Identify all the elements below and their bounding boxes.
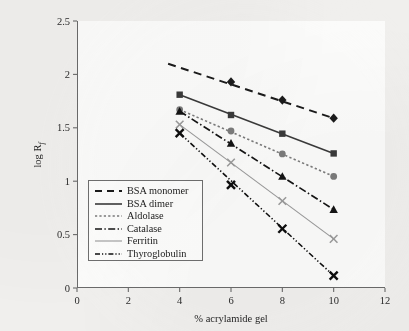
- legend-swatch-dashdot-icon: [94, 224, 123, 234]
- chart-canvas: 00.511.522.5 024681012 log Rf % acrylami…: [0, 0, 409, 331]
- data-point-marker: [176, 121, 184, 129]
- y-tick-label: 2.5: [57, 16, 70, 27]
- legend-label-catalase: Catalase: [123, 224, 162, 234]
- data-point-marker: [279, 130, 285, 136]
- legend-label-bsa-monomer: BSA monomer: [123, 186, 189, 196]
- y-tick-label: 0.5: [57, 229, 70, 240]
- legend-swatch-dotted-icon: [94, 211, 123, 221]
- legend-swatch-thin-solid-icon: [94, 236, 123, 246]
- x-axis-ticks: 024681012: [74, 288, 390, 306]
- y-axis-title-sub: f: [37, 142, 46, 145]
- data-point-marker: [330, 235, 338, 243]
- data-point-marker: [278, 225, 286, 233]
- chart-legend: BSA monomer BSA dimer Aldolase Catalase …: [88, 180, 203, 261]
- legend-label-bsa-dimer: BSA dimer: [123, 199, 173, 209]
- data-point-marker: [279, 197, 287, 205]
- data-point-marker: [228, 112, 234, 118]
- series-line: [180, 95, 334, 154]
- data-point-marker: [228, 128, 235, 135]
- data-point-marker: [330, 150, 336, 156]
- data-point-marker: [329, 114, 337, 123]
- y-tick-label: 1: [65, 176, 70, 187]
- y-tick-label: 1.5: [57, 122, 70, 133]
- data-point-marker: [227, 159, 235, 167]
- legend-item-ferritin[interactable]: Ferritin: [89, 235, 202, 248]
- legend-item-catalase[interactable]: Catalase: [89, 223, 202, 236]
- legend-item-bsa-monomer[interactable]: BSA monomer: [89, 185, 202, 198]
- legend-label-aldolase: Aldolase: [123, 211, 164, 221]
- data-point-marker: [176, 91, 182, 97]
- x-tick-label: 0: [74, 295, 79, 306]
- series-bsa-monomer: [168, 64, 338, 123]
- x-tick-label: 4: [177, 295, 183, 306]
- y-axis-title: log Rf: [32, 142, 46, 168]
- legend-item-aldolase[interactable]: Aldolase: [89, 210, 202, 223]
- x-tick-label: 6: [228, 295, 233, 306]
- y-tick-label: 2: [65, 69, 70, 80]
- series-line: [168, 64, 334, 118]
- legend-label-ferritin: Ferritin: [123, 236, 158, 246]
- legend-swatch-dashdotdot-icon: [94, 249, 123, 259]
- x-axis-title: % acrylamide gel: [194, 313, 268, 324]
- data-point-marker: [176, 129, 184, 137]
- x-tick-label: 2: [126, 295, 131, 306]
- data-point-marker: [330, 272, 338, 280]
- legend-item-bsa-dimer[interactable]: BSA dimer: [89, 198, 202, 211]
- y-axis-ticks: 00.511.522.5: [57, 16, 77, 294]
- data-point-marker: [329, 205, 337, 213]
- series-line: [180, 110, 334, 177]
- x-tick-label: 10: [328, 295, 339, 306]
- legend-swatch-dashed-icon: [94, 186, 123, 196]
- series-aldolase: [176, 106, 337, 180]
- chart-figure: 00.511.522.5 024681012 log Rf % acrylami…: [0, 0, 409, 331]
- svg-text:log Rf: log Rf: [32, 142, 46, 168]
- y-axis-title-main: log R: [32, 145, 43, 168]
- data-point-marker: [278, 172, 286, 180]
- x-tick-label: 12: [380, 295, 391, 306]
- legend-swatch-solid-icon: [94, 199, 123, 209]
- x-tick-label: 8: [280, 295, 285, 306]
- legend-label-thyroglobulin: Thyroglobulin: [123, 249, 187, 259]
- data-point-marker: [330, 173, 337, 180]
- data-point-marker: [279, 151, 286, 158]
- data-point-marker: [227, 181, 235, 189]
- legend-item-thyroglobulin[interactable]: Thyroglobulin: [89, 248, 202, 261]
- y-tick-label: 0: [65, 283, 70, 294]
